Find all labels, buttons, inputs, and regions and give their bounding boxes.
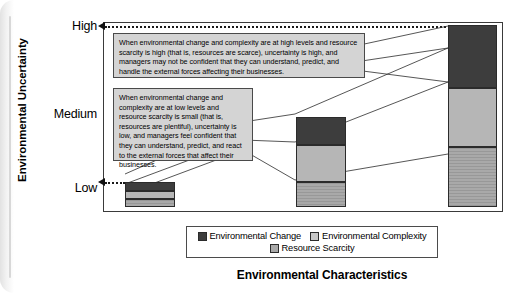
bar-low-segment-environmental-complexity [125,191,175,199]
y-axis-title: Environmental Uncertainty [16,4,28,216]
legend-swatch-environmental-change [198,232,207,241]
legend-item-environmental-change: Environmental Change [198,230,302,242]
bar-medium-segment-environmental-change [296,117,346,145]
legend-row-2: Resource Scarcity [187,242,437,254]
x-axis-title: Environmental Characteristics [132,268,512,282]
legend-label-environmental-complexity: Environmental Complexity [322,230,426,242]
bar-low-segment-environmental-change [125,182,175,191]
legend-item-resource-scarcity: Resource Scarcity [270,242,355,254]
legend-swatch-environmental-complexity [310,232,319,241]
legend-row-1: Environmental Change Environmental Compl… [187,230,437,242]
y-tick-low: Low [75,181,97,195]
y-tick-high: High [72,19,97,33]
callout-high-uncertainty: When environmental change and complexity… [113,33,365,78]
bar-medium-segment-environmental-complexity [296,145,346,182]
chart-legend: Environmental Change Environmental Compl… [186,226,438,258]
bar-high [448,25,497,207]
bar-high-segment-resource-scarcity [448,147,497,207]
page-edge-artifact [0,0,14,293]
bar-low-segment-resource-scarcity [125,199,175,207]
bar-low [125,182,175,207]
high-arrowhead [98,22,105,30]
legend-item-environmental-complexity: Environmental Complexity [310,230,426,242]
bar-high-segment-environmental-complexity [448,88,497,147]
legend-swatch-resource-scarcity [270,244,279,253]
y-axis-tick-labels: High Medium Low [30,0,97,293]
low-dotted-line [105,182,125,184]
low-arrowhead [98,178,105,186]
bar-medium-segment-resource-scarcity [296,182,346,207]
high-dotted-line [105,26,497,28]
callout-low-uncertainty: When environmental change and complexity… [113,88,253,161]
bar-high-segment-environmental-change [448,25,497,88]
y-tick-medium: Medium [54,107,97,121]
legend-label-environmental-change: Environmental Change [210,230,302,242]
legend-label-resource-scarcity: Resource Scarcity [282,242,355,254]
bar-medium [296,117,346,207]
page-binding-line [9,16,11,278]
